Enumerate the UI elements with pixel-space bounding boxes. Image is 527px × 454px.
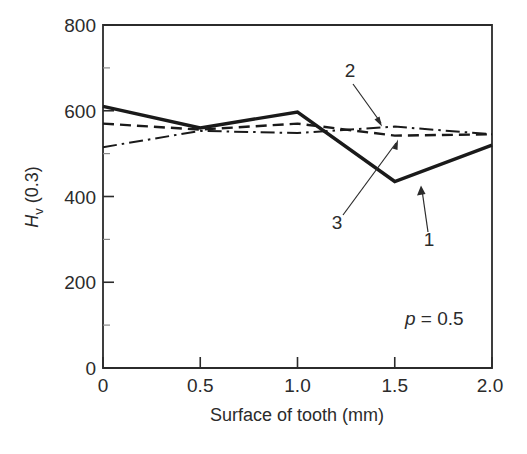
y-axis-title-main: H (22, 214, 42, 228)
y-axis-major-ticks (103, 25, 114, 368)
x-axis-tick-labels: 0 0.5 1.0 1.5 2.0 (98, 375, 504, 396)
annotation-leader-1 (422, 190, 428, 232)
series-line-2 (103, 127, 492, 148)
x-tick-label-0: 0 (98, 375, 109, 396)
annotation-arrowhead-2 (375, 117, 383, 127)
x-tick-label-1-5: 1.5 (382, 375, 408, 396)
y-axis-tick-labels: 800 600 400 200 0 (64, 15, 96, 379)
chart-figure: 800 600 400 200 0 0 0.5 1.0 1.5 2.0 Surf… (0, 0, 527, 454)
y-tick-label-800: 800 (64, 15, 96, 36)
annotation-leader-2 (353, 84, 381, 123)
y-tick-label-400: 400 (64, 187, 96, 208)
annotation-label-1: 1 (424, 229, 435, 250)
parameter-value: 0.5 (437, 308, 463, 329)
series-line-1 (103, 106, 492, 181)
annotation-2: 2 (345, 60, 382, 127)
line-chart-svg: 800 600 400 200 0 0 0.5 1.0 1.5 2.0 Surf… (0, 0, 527, 454)
y-axis-title-tail: (0.3) (22, 166, 42, 208)
annotation-1: 1 (417, 186, 434, 251)
x-tick-label-0-5: 0.5 (187, 375, 213, 396)
svg-text:Hv (0.3): Hv (0.3) (22, 166, 46, 228)
parameter-equals: = (416, 308, 438, 329)
x-axis-title: Surface of tooth (mm) (210, 405, 384, 425)
annotation-label-3: 3 (332, 212, 343, 233)
annotation-label-2: 2 (345, 60, 356, 81)
annotation-leader-3 (343, 143, 396, 215)
x-tick-label-2-0: 2.0 (477, 375, 503, 396)
y-tick-label-600: 600 (64, 101, 96, 122)
parameter-symbol: p (404, 308, 416, 329)
y-tick-label-200: 200 (64, 272, 96, 293)
y-tick-label-0: 0 (85, 358, 96, 379)
annotation-arrowhead-3 (393, 140, 399, 151)
y-axis-title: Hv (0.3) (22, 166, 46, 228)
annotation-3: 3 (332, 140, 398, 234)
x-tick-label-1-0: 1.0 (284, 375, 310, 396)
parameter-annotation: p = 0.5 (404, 308, 464, 329)
annotation-arrowhead-1 (417, 186, 426, 196)
x-axis-major-ticks (103, 357, 492, 368)
